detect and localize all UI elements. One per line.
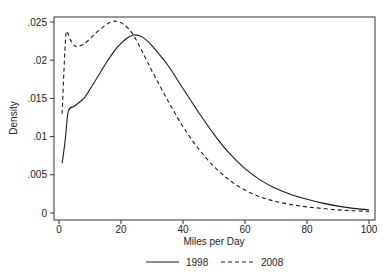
y-tick-label: .01 xyxy=(33,131,47,142)
density-chart: 0.005.01.015.02.025 020406080100 Density… xyxy=(0,0,388,275)
y-tick-label: .015 xyxy=(28,93,48,104)
x-tick-label: 60 xyxy=(239,224,251,235)
y-tick-label: .025 xyxy=(28,17,48,28)
x-tick-label: 40 xyxy=(177,224,189,235)
y-axis: 0.005.01.015.02.025 xyxy=(28,17,54,219)
x-tick-label: 0 xyxy=(56,224,62,235)
x-tick-label: 80 xyxy=(301,224,313,235)
x-tick-label: 100 xyxy=(361,224,378,235)
x-tick-label: 20 xyxy=(115,224,127,235)
y-axis-label: Density xyxy=(8,101,19,134)
plot-area xyxy=(54,17,375,220)
legend-label-1998: 1998 xyxy=(186,257,209,268)
x-axis: 020406080100 xyxy=(56,220,378,235)
x-axis-label: Miles per Day xyxy=(183,236,244,247)
y-tick-label: .005 xyxy=(28,169,48,180)
legend: 19982008 xyxy=(146,257,284,268)
y-tick-label: .02 xyxy=(33,55,47,66)
legend-label-2008: 2008 xyxy=(261,257,284,268)
y-tick-label: 0 xyxy=(41,208,47,219)
